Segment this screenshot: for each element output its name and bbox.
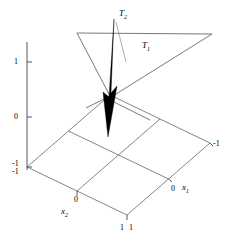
x1-tick-label-zero: 0: [171, 185, 175, 193]
surface-label-t1: T1: [142, 41, 150, 52]
vertical-axis: [27, 42, 32, 170]
base-corner-label-bottom-left: 1: [120, 224, 124, 232]
t1-top-edge: [77, 33, 212, 34]
grid-line-x2-mid: [119, 119, 161, 155]
t2-filled-sliver: [103, 19, 117, 137]
vertical-tick-label-1: 1: [14, 58, 18, 66]
base-corner-label-right: -1: [213, 140, 220, 148]
surface-plot-figure: 1 0 -1 -1 -1 1 1 0 x1 0 x2 T2 T1: [0, 0, 237, 243]
vertical-tick-label-0: 0: [14, 113, 18, 121]
t1-right-edge: [108, 34, 212, 99]
x2-axis-title: x2: [61, 207, 68, 218]
surface-label-t2: T2: [119, 9, 127, 20]
x2-axis-title-sub: 2: [65, 212, 68, 218]
base-corner-label-bottom-right: 1: [129, 224, 133, 232]
plot-canvas: [0, 0, 237, 243]
base-corner-label-left: -1: [12, 168, 19, 176]
surface-label-t1-sub: 1: [147, 46, 150, 52]
t2-leader-line: [116, 22, 126, 62]
x2-tick-label-zero: 0: [74, 196, 78, 204]
grid-line-x2-mid-b: [77, 155, 119, 191]
surface-label-t2-sub: 2: [124, 14, 127, 20]
x1-tick-zero: [169, 179, 173, 182]
base-axis-ticks: [77, 143, 213, 220]
base-plane-grid: [27, 95, 210, 215]
surface-t2: [103, 19, 126, 137]
t1-left-edge: [77, 33, 110, 96]
x1-axis-title-sub: 1: [186, 188, 189, 194]
x1-axis-title: x1: [182, 183, 189, 194]
